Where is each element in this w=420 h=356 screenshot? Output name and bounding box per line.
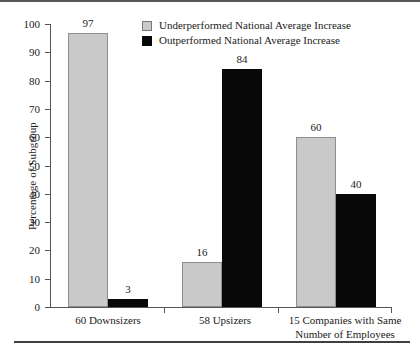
x-axis-tick-3: [391, 308, 392, 313]
bar-chart-figure: Percentage of Subgroup Underperformed Na…: [0, 0, 420, 356]
bar-group1-outperformed: [108, 299, 148, 307]
x-axis-group-label-upsizers: 58 Upsizers: [165, 314, 285, 328]
bar-group2-outperformed: [222, 69, 262, 307]
y-axis-tick-60: [45, 137, 50, 138]
y-axis-tick-30: [45, 222, 50, 223]
y-axis-tick-label-100: 100: [0, 19, 40, 30]
x-axis-tick-1: [164, 308, 165, 313]
y-axis-tick-80: [45, 81, 50, 82]
y-axis-tick-label-80: 80: [0, 76, 40, 87]
y-axis-tick-0: [45, 307, 50, 308]
y-axis-tick-10: [45, 279, 50, 280]
y-axis-tick-label-10: 10: [0, 274, 40, 285]
y-axis-tick-label-40: 40: [0, 189, 40, 200]
y-axis-tick-label-20: 20: [0, 245, 40, 256]
y-axis-tick-label-90: 90: [0, 47, 40, 58]
bar-value-label-group1-underperformed: 97: [60, 18, 116, 29]
y-axis-spine: [50, 24, 51, 308]
bar-group3-outperformed: [336, 194, 376, 307]
plot-area: 0102030405060708090100 97316846040: [50, 24, 392, 307]
x-axis-group-label-downsizers: 60 Downsizers: [43, 314, 173, 328]
y-axis-tick-100: [45, 24, 50, 25]
y-axis-tick-70: [45, 109, 50, 110]
bar-value-label-group2-outperformed: 84: [214, 54, 270, 65]
bar-value-label-group1-outperformed: 3: [100, 284, 156, 295]
y-axis-tick-90: [45, 52, 50, 53]
bottom-divider-rule: [14, 341, 410, 343]
y-axis-tick-label-70: 70: [0, 104, 40, 115]
x-axis-group-label-same-employees: 15 Companies with Same Number of Employe…: [272, 314, 418, 341]
y-axis-tick-label-60: 60: [0, 132, 40, 143]
x-axis-tick-2: [278, 308, 279, 313]
y-axis-tick-label-0: 0: [0, 302, 40, 313]
top-divider-rule: [0, 0, 420, 2]
bar-value-label-group3-underperformed: 60: [288, 122, 344, 133]
x-axis-spine: [50, 307, 392, 308]
y-axis-tick-20: [45, 250, 50, 251]
y-axis-tick-40: [45, 194, 50, 195]
bar-group1-underperformed: [68, 33, 108, 308]
y-axis-tick-label-30: 30: [0, 217, 40, 228]
bar-group2-underperformed: [182, 262, 222, 307]
y-axis-tick-50: [45, 166, 50, 167]
y-axis-tick-label-50: 50: [0, 161, 40, 172]
bar-group3-underperformed: [296, 137, 336, 307]
bar-value-label-group3-outperformed: 40: [328, 179, 384, 190]
